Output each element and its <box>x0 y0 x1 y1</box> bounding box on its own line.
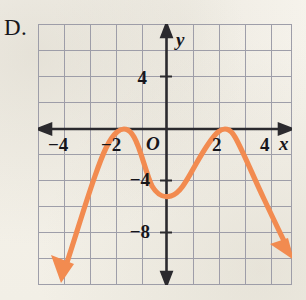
x-axis <box>38 124 292 134</box>
figure-page: D. <box>0 0 306 300</box>
y-tick-label-minus4: −4 <box>130 170 150 189</box>
x-tick-label-minus2: −2 <box>101 135 121 154</box>
y-axis-bottom-arrowhead <box>162 272 172 285</box>
x-tick-label-minus4: −4 <box>48 135 68 154</box>
curve-path <box>63 129 288 274</box>
x-tick-label-2: 2 <box>212 135 222 154</box>
x-tick-label-4: 4 <box>260 135 270 154</box>
graph-svg <box>38 24 292 285</box>
x-axis-name: x <box>279 134 289 153</box>
y-tick-label-minus8: −8 <box>130 222 150 241</box>
y-tick-label-4: 4 <box>138 68 148 87</box>
curve-right-arrowhead <box>270 238 292 260</box>
choice-letter-label: D. <box>4 16 27 39</box>
x-axis-left-arrowhead <box>38 124 51 134</box>
y-axis-name: y <box>176 30 184 49</box>
coordinate-graph: 4 −4 −8 −4 −2 2 4 O y x <box>38 24 292 285</box>
grid-lines <box>38 24 292 285</box>
y-axis-top-arrowhead <box>162 24 172 37</box>
origin-label: O <box>146 134 160 153</box>
